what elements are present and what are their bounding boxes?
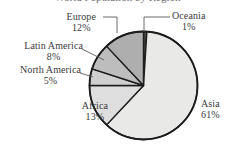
slice-label-oceania-value: 1% — [172, 21, 205, 32]
slice-label-asia-name: Asia — [201, 98, 220, 109]
slice-label-oceania: Oceania 1% — [172, 10, 205, 32]
slice-label-latin-america-name: Latin America — [24, 40, 83, 51]
slice-label-africa-value: 13% — [82, 111, 108, 122]
slice-label-latin-america: Latin America 8% — [24, 40, 83, 62]
slice-label-asia-value: 61% — [201, 109, 220, 120]
slice-label-europe-value: 12% — [67, 22, 96, 33]
slice-label-oceania-name: Oceania — [172, 10, 205, 21]
slice-label-africa-name: Africa — [82, 100, 108, 111]
slice-label-europe: Europe 12% — [67, 11, 96, 33]
leader-line-oceania — [144, 17, 170, 32]
chart-title: World Population by Region — [0, 0, 235, 3]
leader-line-europe — [103, 17, 117, 33]
slice-label-north-america-name: North America — [20, 64, 81, 75]
slice-label-north-america: North America 5% — [20, 64, 81, 86]
slice-label-latin-america-value: 8% — [24, 51, 83, 62]
pie-slices-group — [90, 32, 198, 140]
slice-label-europe-name: Europe — [67, 11, 96, 22]
pie-chart-figure: World Population by Region Europe 12% La… — [0, 0, 235, 162]
slice-label-north-america-value: 5% — [20, 75, 81, 86]
slice-label-asia: Asia 61% — [201, 98, 220, 120]
slice-label-africa: Africa 13% — [82, 100, 108, 122]
